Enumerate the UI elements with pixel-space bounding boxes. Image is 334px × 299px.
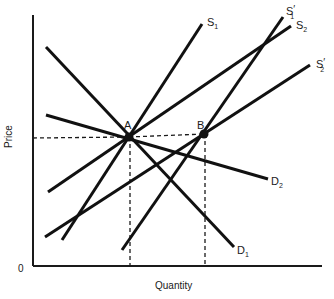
price-guide-a [33, 137, 129, 138]
label-s1: S1 [207, 16, 218, 30]
supply-curve-s1 [62, 24, 202, 240]
point-label-a: A [124, 119, 132, 131]
supply-demand-diagram: A B S1 S′1 S2 S′2 D1 D2 0 Quantity Price [0, 0, 334, 299]
x-axis-label: Quantity [155, 280, 192, 291]
y-axis-label: Price [3, 125, 14, 148]
origin-label: 0 [18, 263, 24, 274]
equilibrium-point-a [125, 133, 134, 142]
supply-curve-s2-prime [45, 65, 310, 237]
supply-curve-s2 [48, 26, 291, 192]
label-s2: S2 [296, 19, 307, 33]
label-s1-prime: S′1 [286, 4, 295, 20]
label-d2: D2 [271, 175, 283, 189]
point-label-b: B [197, 119, 204, 131]
label-d1: D1 [237, 244, 249, 258]
label-s2-prime: S′2 [316, 57, 325, 73]
price-guide-b [129, 134, 204, 137]
